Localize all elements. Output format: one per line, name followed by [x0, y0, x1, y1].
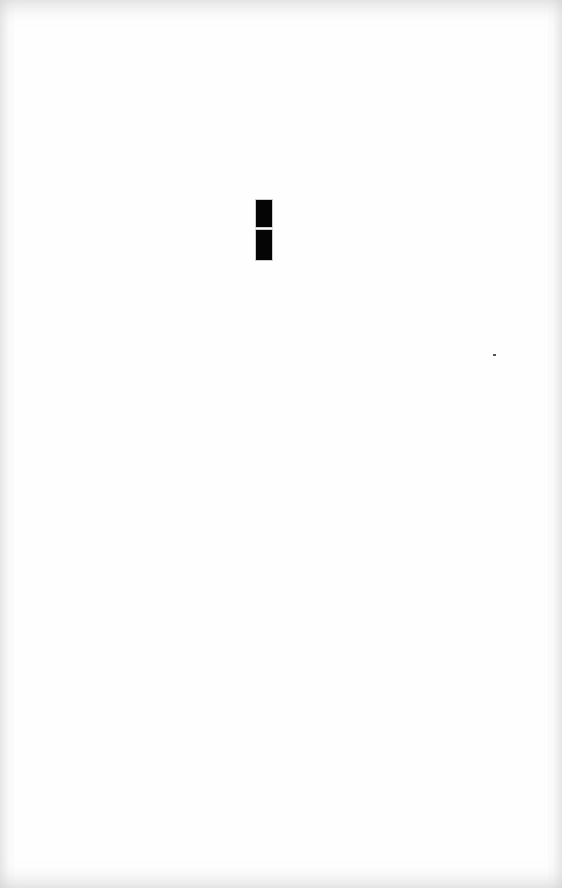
- black-block-upper: [256, 200, 272, 227]
- scanned-page: [0, 0, 562, 888]
- stray-speck: [493, 354, 496, 356]
- black-block-lower: [256, 230, 272, 260]
